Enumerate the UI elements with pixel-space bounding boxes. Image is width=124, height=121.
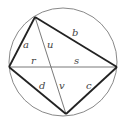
cyclic-quadrilateral-diagram: a b c d u v r s [0,0,124,121]
diagonal-vertical-uv [35,17,66,114]
label-r: r [31,55,37,66]
label-d: d [39,80,45,91]
label-a: a [23,39,29,50]
label-b: b [72,27,78,38]
circumscribed-circle [9,8,117,116]
label-v: v [59,80,65,91]
label-s: s [74,55,79,66]
label-c: c [86,80,92,91]
label-u: u [47,39,53,50]
